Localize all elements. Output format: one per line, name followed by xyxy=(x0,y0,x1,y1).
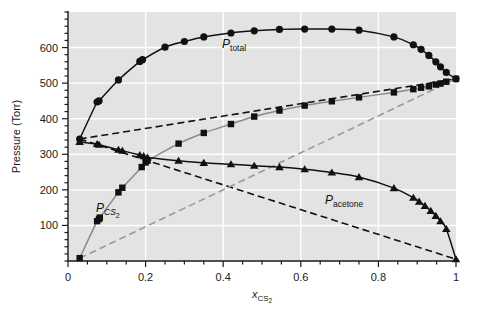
x-tick-label: 0.4 xyxy=(216,271,231,283)
data-point-circle xyxy=(161,44,168,51)
data-point-circle xyxy=(139,56,146,63)
y-tick-label: 200 xyxy=(40,184,58,196)
data-point-square xyxy=(276,107,282,113)
data-point-square xyxy=(443,79,449,85)
data-point-circle xyxy=(425,52,432,59)
x-tick-label: 0 xyxy=(65,271,71,283)
data-point-square xyxy=(453,76,459,82)
data-point-square xyxy=(175,140,181,146)
x-tick-label: 0.6 xyxy=(293,271,308,283)
data-point-circle xyxy=(437,63,444,70)
data-point-square xyxy=(228,121,234,127)
x-tick-label: 0.2 xyxy=(138,271,153,283)
data-point-square xyxy=(97,214,103,220)
y-tick-label: 600 xyxy=(40,42,58,54)
data-point-square xyxy=(391,89,397,95)
y-tick-label: 400 xyxy=(40,113,58,125)
y-axis-title-text: Pressure (Torr) xyxy=(10,100,22,173)
data-point-circle xyxy=(200,33,207,40)
data-point-square xyxy=(119,185,125,191)
data-point-circle xyxy=(301,25,308,32)
data-point-square xyxy=(251,113,257,119)
y-tick-label: 500 xyxy=(40,77,58,89)
data-point-circle xyxy=(328,25,335,32)
x-axis-title: xCS2 xyxy=(251,288,273,304)
pressure-composition-chart: 10020030040050060000.20.40.60.81Pressure… xyxy=(0,0,485,313)
data-point-square xyxy=(201,130,207,136)
x-tick-label: 0.8 xyxy=(371,271,386,283)
data-point-circle xyxy=(410,41,417,48)
data-point-square xyxy=(410,86,416,92)
data-point-circle xyxy=(95,97,102,104)
data-point-square xyxy=(356,94,362,100)
data-point-circle xyxy=(443,69,450,76)
figure-root: 10020030040050060000.20.40.60.81Pressure… xyxy=(0,0,485,313)
data-point-square xyxy=(426,83,432,89)
data-point-square xyxy=(418,85,424,91)
y-tick-label: 300 xyxy=(40,148,58,160)
y-axis-title: Pressure (Torr) xyxy=(10,100,22,173)
data-point-circle xyxy=(276,26,283,33)
data-point-square xyxy=(437,80,443,86)
data-point-circle xyxy=(417,46,424,53)
y-tick-label: 100 xyxy=(40,219,58,231)
x-axis-title-text: xCS2 xyxy=(251,288,273,304)
data-point-circle xyxy=(227,29,234,36)
data-point-square xyxy=(301,102,307,108)
data-point-circle xyxy=(390,33,397,40)
data-point-square xyxy=(329,98,335,104)
x-tick-label: 1 xyxy=(453,271,459,283)
data-point-circle xyxy=(115,76,122,83)
plot-background xyxy=(68,12,456,261)
data-point-circle xyxy=(251,27,258,34)
data-point-circle xyxy=(355,27,362,34)
data-point-circle xyxy=(181,38,188,45)
